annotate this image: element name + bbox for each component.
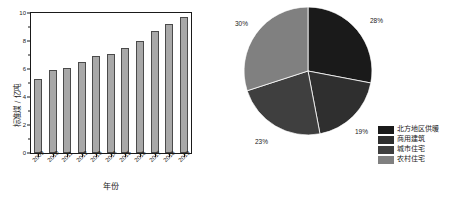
pie-pct-rural-residential: 30% [235,20,248,27]
x-tick-2012: 2012 [78,154,86,174]
x-tick-2017: 2017 [151,154,159,174]
legend-label-1: 商用建筑 [397,135,425,144]
y-tick-label-10: 10 [19,10,26,16]
legend-swatch-2 [378,146,394,154]
bar-chart-panel: 0246810 标准煤 / 亿吨 20092010201120122013201… [0,0,230,199]
y-tick-label-2: 2 [23,122,26,128]
x-tick-2015: 2015 [121,154,129,174]
legend-item-0: 北方地区供暖 [378,125,439,134]
bar-2011 [63,68,71,153]
pie-chart-panel: 28% 30% 23% 19% 北方地区供暖商用建筑城市住宅农村住宅 [230,0,454,199]
y-tick-mark-4 [27,97,30,98]
bar-2014 [107,54,115,153]
bar-2016 [136,41,144,153]
pie-graphic [244,7,372,135]
y-tick-mark-2 [27,125,30,126]
y-tick-label-6: 6 [23,66,26,72]
pie-pct-urban-residential: 23% [255,138,268,145]
legend-item-2: 城市住宅 [378,145,439,154]
legend-swatch-0 [378,126,394,134]
y-tick-label-4: 4 [23,94,26,100]
bar-2013 [92,56,100,153]
bar-2010 [49,70,57,153]
legend-swatch-3 [378,156,394,164]
bar-2009 [34,79,42,153]
y-tick-minor-1 [28,139,30,140]
pie-pct-north-heating: 28% [370,17,383,24]
legend-swatch-1 [378,136,394,144]
y-tick-minor-9 [28,27,30,28]
pie-slice-0 [308,7,372,83]
x-tick-2014: 2014 [107,154,115,174]
y-tick-label-8: 8 [23,38,26,44]
y-tick-label-0: 0 [23,150,26,156]
x-tick-2010: 2010 [49,154,57,174]
y-tick-mark-8 [27,41,30,42]
bar-2012 [78,62,86,153]
bar-x-axis: 2009201020112012201320142015201620172018… [31,154,191,174]
bar-y-axis-title: 标准煤 / 亿吨 [11,63,22,147]
y-tick-mark-10 [27,13,30,14]
y-tick-minor-7 [28,55,30,56]
figure-container: 0246810 标准煤 / 亿吨 20092010201120122013201… [0,0,454,199]
pie-svg [244,7,372,135]
pie-pct-commercial-building: 19% [355,128,368,135]
legend-item-3: 农村住宅 [378,155,439,164]
x-tick-2009: 2009 [34,154,42,174]
legend-item-1: 商用建筑 [378,135,439,144]
pie-legend: 北方地区供暖商用建筑城市住宅农村住宅 [378,125,439,164]
x-tick-2019: 2019 [180,154,188,174]
y-tick-minor-3 [28,111,30,112]
y-tick-mark-0 [27,153,30,154]
x-tick-2013: 2013 [92,154,100,174]
bar-2019 [180,17,188,153]
x-tick-2016: 2016 [136,154,144,174]
legend-label-2: 城市住宅 [397,145,425,154]
bar-x-axis-title: 年份 [0,180,222,191]
bar-2017 [151,31,159,154]
x-tick-2018: 2018 [165,154,173,174]
bar-series [31,13,191,153]
bar-2015 [121,48,129,153]
y-tick-mark-6 [27,69,30,70]
y-tick-minor-5 [28,83,30,84]
bar-2018 [165,24,173,154]
x-tick-2011: 2011 [63,154,71,174]
legend-label-3: 农村住宅 [397,155,425,164]
legend-label-0: 北方地区供暖 [397,125,439,134]
